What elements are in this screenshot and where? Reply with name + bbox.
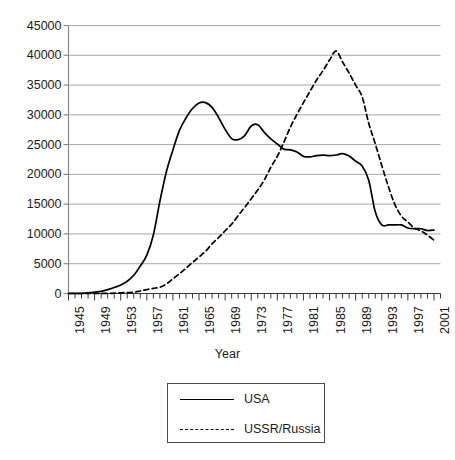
chart-legend: USA USSR/Russia bbox=[167, 383, 325, 443]
x-axis-tick-label: 1945 bbox=[74, 306, 87, 334]
x-axis-tick-label: 1989 bbox=[361, 306, 374, 334]
x-axis-tick-label: 1993 bbox=[387, 306, 400, 334]
legend-item-ussr-russia: USSR/Russia bbox=[168, 414, 324, 444]
x-axis-tick-label: 1997 bbox=[413, 306, 426, 334]
x-axis-tick-label: 1961 bbox=[178, 306, 191, 334]
y-axis-tick-label: 20000 bbox=[0, 168, 62, 181]
y-axis-tick-label: 10000 bbox=[0, 228, 62, 241]
x-axis-tick-label: 2001 bbox=[439, 306, 452, 334]
chart-figure: 0500010000150002000025000300003500040000… bbox=[0, 0, 455, 460]
legend-label-usa: USA bbox=[244, 392, 270, 406]
legend-item-usa: USA bbox=[168, 384, 324, 414]
y-axis-tick-label: 0 bbox=[0, 287, 62, 300]
legend-swatch-solid-line-icon bbox=[180, 394, 234, 404]
x-axis-tick-label: 1977 bbox=[282, 306, 295, 334]
x-axis-title: Year bbox=[0, 347, 455, 361]
x-axis-tick-label: 1973 bbox=[256, 306, 269, 334]
y-axis-tick-label: 30000 bbox=[0, 109, 62, 122]
legend-label-ussr-russia: USSR/Russia bbox=[244, 422, 320, 436]
y-axis-tick-label: 15000 bbox=[0, 198, 62, 211]
y-axis-tick-label: 45000 bbox=[0, 19, 62, 32]
x-axis-tick-label: 1953 bbox=[126, 306, 139, 334]
x-axis-tick-label: 1965 bbox=[204, 306, 217, 334]
series-line-ussr-russia bbox=[69, 51, 434, 294]
y-axis-tick-label: 25000 bbox=[0, 138, 62, 151]
x-axis-tick-label: 1957 bbox=[152, 306, 165, 334]
x-axis-tick-label: 1949 bbox=[100, 306, 113, 334]
y-axis-tick-label: 35000 bbox=[0, 79, 62, 92]
y-axis-tick-label: 5000 bbox=[0, 257, 62, 270]
x-axis-tick-label: 1981 bbox=[308, 306, 321, 334]
x-axis-tick-label: 1969 bbox=[230, 306, 243, 334]
legend-swatch-dashed-line-icon bbox=[180, 424, 234, 434]
y-axis-tick-label: 40000 bbox=[0, 49, 62, 62]
x-axis-tick-label: 1985 bbox=[335, 306, 348, 334]
